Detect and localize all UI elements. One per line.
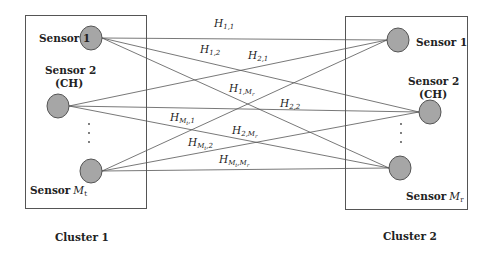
cluster-2-sensor-2-node[interactable]	[419, 100, 441, 124]
link-mt-2	[102, 112, 419, 171]
cluster-1-sensor-mt-label: SensorMt	[30, 184, 87, 198]
cluster-1-sensor-2-ch-label: (CH)	[55, 77, 83, 89]
cluster-1-sensor-2-node[interactable]	[47, 94, 69, 118]
channel-label-hmtmr: HMt,Mr	[218, 153, 250, 168]
cluster-1-sensor-mt-node[interactable]	[80, 159, 102, 183]
channel-label-h2mr: H2,Mr	[231, 124, 258, 139]
link-1-1	[102, 38, 387, 40]
diagram-canvas: Sensor 1 Sensor 2 (CH) SensorMt Sensor 1…	[0, 0, 489, 256]
cluster-1-sensor-1-label: Sensor 1	[39, 32, 90, 44]
channel-label-h1mr: H1,Mr	[228, 82, 255, 97]
channel-label-h12: H1,2	[199, 43, 221, 57]
cluster-2-sensor-mr-label: SensorMr	[406, 190, 464, 204]
left-ellipsis-dots	[88, 123, 90, 143]
channel-label-hmt1: HMt,1	[169, 111, 195, 126]
channel-label-h21: H2,1	[247, 49, 268, 63]
cluster-2-sensor-2-label: Sensor 2	[408, 75, 459, 87]
channel-label-h22: H2,2	[279, 97, 301, 111]
cluster-1-label: Cluster 1	[55, 231, 109, 243]
cluster-2-sensor-2-ch-label: (CH)	[419, 88, 447, 100]
channel-links	[69, 38, 419, 171]
channel-label-hmt2: HMt,2	[187, 136, 214, 151]
right-ellipsis-dots	[400, 123, 402, 143]
cluster-2-label: Cluster 2	[383, 230, 437, 242]
link-2-1	[69, 40, 387, 106]
link-1-2	[102, 38, 419, 112]
cluster-2-sensor-mr-node[interactable]	[389, 156, 411, 180]
cluster-1-sensor-2-label: Sensor 2	[45, 64, 96, 76]
link-2-2	[69, 106, 419, 112]
link-mt-1	[102, 40, 387, 171]
channel-label-h11: H1,1	[213, 17, 234, 31]
cluster-2-sensor-1-label: Sensor 1	[416, 36, 467, 48]
cluster-2-sensor-1-node[interactable]	[387, 28, 409, 52]
